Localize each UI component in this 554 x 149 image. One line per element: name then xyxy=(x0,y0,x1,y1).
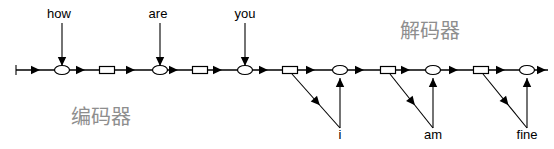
rnn-cell-node-0 xyxy=(55,66,70,75)
backbone-arrowhead-10 xyxy=(496,66,505,74)
input-arrow-head-0 xyxy=(58,57,66,66)
backbone-arrowhead-3 xyxy=(169,66,178,74)
backbone-arrowhead-5 xyxy=(259,66,268,74)
rnn-cell-node-4 xyxy=(238,66,253,75)
backbone-arrowhead-6 xyxy=(306,66,315,74)
backbone-arrowhead-0 xyxy=(31,66,40,74)
backbone-arrowhead-9 xyxy=(449,66,458,74)
state-box-node-5 xyxy=(283,67,298,74)
output-stem-arrowhead-0 xyxy=(336,78,344,87)
diagram-canvas: howareyouiamfine编码器解码器 xyxy=(0,0,554,149)
state-box-node-7 xyxy=(381,67,396,74)
backbone-arrowhead-7 xyxy=(355,66,364,74)
rnn-cell-node-10 xyxy=(520,66,535,75)
encoder-section-label: 编码器 xyxy=(71,105,131,129)
state-box-node-9 xyxy=(474,67,489,74)
state-box-node-1 xyxy=(100,67,115,74)
input-arrow-head-1 xyxy=(156,57,164,66)
backbone-arrowhead-8 xyxy=(401,66,410,74)
rnn-cell-node-2 xyxy=(153,66,168,75)
output-stem-arrowhead-2 xyxy=(523,78,531,87)
rnn-cell-node-8 xyxy=(426,66,441,75)
output-token-label-1: am xyxy=(424,127,442,142)
input-token-label-1: are xyxy=(149,6,168,21)
decoder-section-label: 解码器 xyxy=(400,19,460,43)
output-token-label-0: i xyxy=(339,127,342,142)
input-token-label-2: you xyxy=(235,6,256,21)
state-box-node-3 xyxy=(193,67,208,74)
backbone-arrowhead-4 xyxy=(213,66,222,74)
input-arrow-head-2 xyxy=(241,57,249,66)
decoder-feed-arrowhead-2 xyxy=(500,96,509,106)
backbone-arrowhead-1 xyxy=(76,66,85,74)
input-token-label-0: how xyxy=(47,6,71,21)
backbone-arrowhead-2 xyxy=(126,66,135,74)
backbone-arrowhead-11 xyxy=(537,66,546,74)
output-token-label-2: fine xyxy=(517,127,538,142)
encoder-decoder-diagram: howareyouiamfine编码器解码器 xyxy=(0,0,554,149)
output-stem-arrowhead-1 xyxy=(429,78,437,87)
rnn-cell-node-6 xyxy=(333,66,348,75)
decoder-feed-arrowhead-1 xyxy=(406,96,415,106)
